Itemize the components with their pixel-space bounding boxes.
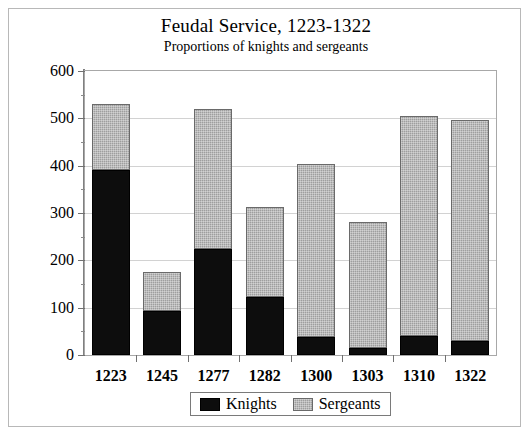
bar-segment-knights[interactable] [400,336,438,355]
y-tick-major [78,71,85,72]
bar-segment-sergeants[interactable] [297,164,335,337]
y-axis-label: 500 [28,110,74,126]
x-tick [239,355,240,362]
bar-group[interactable] [246,71,284,355]
legend-swatch-knights [200,398,220,411]
x-axis-label: 1322 [454,367,486,385]
x-axis-label: 1282 [249,367,281,385]
y-tick-major [78,260,85,261]
x-axis-label: 1300 [300,367,332,385]
bar-segment-sergeants[interactable] [143,272,181,311]
bar-segment-sergeants[interactable] [349,222,387,348]
y-tick-major [78,213,85,214]
plot-area: 0100200300400500600 12231245127712821300… [84,70,497,356]
y-axis-label: 600 [28,63,74,79]
y-axis-label: 0 [28,347,74,363]
x-axis-label: 1245 [146,367,178,385]
legend-label: Sergeants [319,395,381,413]
bar-segment-knights[interactable] [92,170,130,355]
y-axis-label: 100 [28,300,74,316]
y-tick-minor [81,142,85,143]
x-axis-label: 1303 [352,367,384,385]
bar-segment-sergeants[interactable] [451,120,489,341]
bar-group[interactable] [349,71,387,355]
bar-segment-sergeants[interactable] [246,207,284,297]
y-axis-label: 400 [28,158,74,174]
y-tick-major [78,308,85,309]
bar-segment-knights[interactable] [297,337,335,355]
y-tick-minor [81,189,85,190]
bar-segment-knights[interactable] [246,297,284,355]
x-tick [136,355,137,362]
x-axis-label: 1310 [403,367,435,385]
y-axis-label: 200 [28,252,74,268]
bar-group[interactable] [400,71,438,355]
y-tick-minor [81,95,85,96]
legend-item[interactable]: Sergeants [293,395,381,413]
chart-subtitle: Proportions of knights and sergeants [0,38,532,55]
x-tick [342,355,343,362]
x-axis-label: 1223 [95,367,127,385]
y-tick-minor [81,284,85,285]
bar-segment-sergeants[interactable] [92,104,130,170]
bar-group[interactable] [297,71,335,355]
legend-swatch-sergeants [293,398,313,411]
legend-item[interactable]: Knights [200,395,277,413]
x-tick [445,355,446,362]
y-tick-major [78,166,85,167]
bar-group[interactable] [143,71,181,355]
bar-segment-knights[interactable] [194,249,232,356]
y-axis-label: 300 [28,205,74,221]
x-tick [188,355,189,362]
bar-group[interactable] [92,71,130,355]
legend-label: Knights [226,395,277,413]
y-tick-major [78,118,85,119]
y-tick-minor [81,331,85,332]
x-tick [393,355,394,362]
chart-title: Feudal Service, 1223-1322 [0,14,532,37]
x-tick [291,355,292,362]
bar-segment-knights[interactable] [451,341,489,355]
y-tick-major [78,355,85,356]
bar-group[interactable] [451,71,489,355]
y-tick-minor [81,237,85,238]
chart-legend: KnightsSergeants [190,392,391,416]
bar-segment-sergeants[interactable] [400,116,438,336]
bar-segment-knights[interactable] [143,311,181,355]
chart-figure: Feudal Service, 1223-1322 Proportions of… [0,0,532,442]
bar-segment-sergeants[interactable] [194,109,232,249]
bar-group[interactable] [194,71,232,355]
bar-segment-knights[interactable] [349,348,387,355]
x-axis-label: 1277 [197,367,229,385]
